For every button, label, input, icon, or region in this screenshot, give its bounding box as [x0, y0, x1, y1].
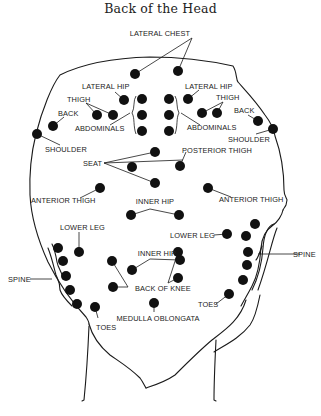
point-back-left	[48, 121, 58, 131]
point-lateral-chest-right	[173, 66, 183, 76]
point-back-right	[253, 116, 263, 126]
point-seat-3	[150, 178, 160, 188]
point-thigh-left-1	[92, 110, 102, 120]
point-abdominals-r3	[164, 126, 174, 136]
labels: LATERAL CHEST LATERAL HIP LATERAL HIP TH…	[8, 29, 316, 332]
point-spine-right-3	[243, 247, 253, 257]
label-anterior-thigh-left: ANTERIOR THIGH	[31, 196, 96, 205]
label-back-left: BACK	[58, 109, 79, 118]
point-lateral-chest-left	[130, 69, 140, 79]
point-toes-right	[224, 289, 234, 299]
label-back-of-knee: BACK OF KNEE	[135, 284, 191, 293]
point-lower-leg-left	[74, 247, 84, 257]
point-spine-left-5	[72, 299, 82, 309]
point-lower-leg-right	[222, 229, 232, 239]
point-inner-hip-upper-left	[126, 210, 136, 220]
point-abdominals-r1	[164, 94, 174, 104]
label-back-right: BACK	[234, 106, 255, 115]
point-abdominals-l2	[137, 110, 147, 120]
point-posterior-thigh	[175, 161, 185, 171]
point-shoulder-left	[32, 129, 42, 139]
label-anterior-thigh-right: ANTERIOR THIGH	[219, 195, 284, 204]
point-thigh-right-1	[197, 108, 207, 118]
point-spine-right-5	[238, 275, 248, 285]
label-seat: SEAT	[83, 159, 103, 168]
head-diagram: LATERAL CHEST LATERAL HIP LATERAL HIP TH…	[0, 0, 321, 416]
label-lateral-hip-left: LATERAL HIP	[82, 82, 130, 91]
label-inner-hip-upper: INNER HIP	[136, 197, 174, 206]
label-lateral-chest: LATERAL CHEST	[130, 29, 191, 38]
label-lower-leg-left: LOWER LEG	[60, 223, 105, 232]
point-toes-left	[90, 302, 100, 312]
point-lateral-hip-left	[119, 95, 129, 105]
label-medulla-oblongata: MEDULLA OBLONGATA	[116, 314, 199, 323]
point-spine-right-1	[250, 219, 260, 229]
point-medulla-oblongata	[149, 298, 159, 308]
point-back-of-knee-1	[107, 256, 117, 266]
point-thigh-left-2	[108, 110, 118, 120]
point-thigh-right-2	[212, 108, 222, 118]
label-abdominals-left: ABDOMINALS	[75, 124, 124, 133]
label-toes-left: TOES	[96, 323, 116, 332]
label-inner-hip-lower: INNER HIP	[138, 249, 176, 258]
point-inner-hip-upper-right	[174, 210, 184, 220]
point-lateral-hip-right	[183, 94, 193, 104]
point-spine-left-1	[53, 243, 63, 253]
point-spine-left-2	[58, 256, 68, 266]
point-anterior-thigh-right	[203, 183, 213, 193]
point-anterior-thigh-left	[95, 183, 105, 193]
point-abdominals-l1	[137, 94, 147, 104]
label-spine-left: SPINE	[8, 275, 31, 284]
point-seat-2	[127, 162, 137, 172]
point-abdominals-r2	[164, 110, 174, 120]
point-back-of-knee-2	[108, 282, 118, 292]
label-abdominals-right: ABDOMINALS	[187, 123, 236, 132]
label-spine-right: SPINE	[293, 250, 316, 259]
point-back-of-knee-4	[173, 273, 183, 283]
label-toes-right: TOES	[198, 300, 218, 309]
label-thigh-left: THIGH	[67, 95, 91, 104]
point-abdominals-l3	[137, 126, 147, 136]
point-seat-1	[150, 147, 160, 157]
point-spine-right-2	[241, 231, 251, 241]
label-thigh-right: THIGH	[216, 93, 240, 102]
label-shoulder-left: SHOULDER	[45, 145, 87, 154]
label-posterior-thigh: POSTERIOR THIGH	[182, 146, 252, 155]
label-lower-leg-right: LOWER LEG	[170, 231, 215, 240]
label-lateral-hip-right: LATERAL HIP	[185, 82, 233, 91]
point-spine-left-4	[65, 285, 75, 295]
point-spine-left-3	[61, 271, 71, 281]
label-shoulder-right: SHOULDER	[228, 135, 270, 144]
point-spine-right-4	[242, 260, 252, 270]
point-inner-hip-lower-left	[127, 265, 137, 275]
point-shoulder-right	[268, 124, 278, 134]
